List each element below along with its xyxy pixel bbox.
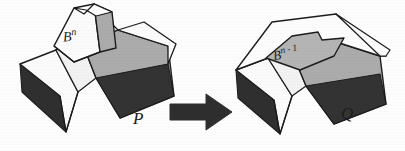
figure-illustration [0,0,405,151]
solid-P [20,4,176,132]
label-b-exponent: n [71,26,77,37]
figure-container: Bn Bn - 1 P Q [0,0,405,151]
label-b-superscript-n: Bn [63,30,78,45]
solid-Q [236,14,390,134]
label-solid-q: Q [341,105,353,122]
label-b-exponent: n - 1 [279,42,298,55]
transformation-arrow [170,94,232,130]
transformation-arrow-shape [170,94,232,130]
label-solid-p: P [133,110,143,127]
